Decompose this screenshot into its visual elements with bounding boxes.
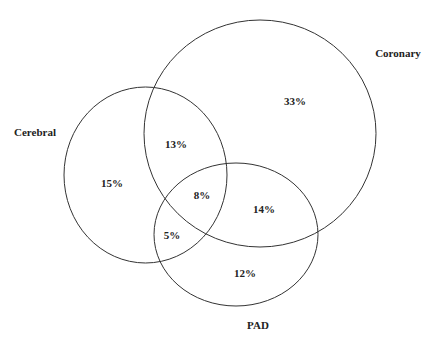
region-value-pad-only: 12% [234,267,256,279]
set-label-cerebral: Cerebral [14,126,56,138]
region-value-all-three: 8% [194,189,211,201]
venn-diagram [0,0,437,344]
region-value-cerebral-coronary: 13% [165,138,187,150]
region-value-coronary-only: 33% [284,95,306,107]
set-label-coronary: Coronary [375,47,421,59]
region-value-cerebral-only: 15% [101,177,123,189]
set-label-pad: PAD [247,319,269,331]
region-value-coronary-pad: 14% [253,203,275,215]
region-value-cerebral-pad: 5% [164,229,181,241]
